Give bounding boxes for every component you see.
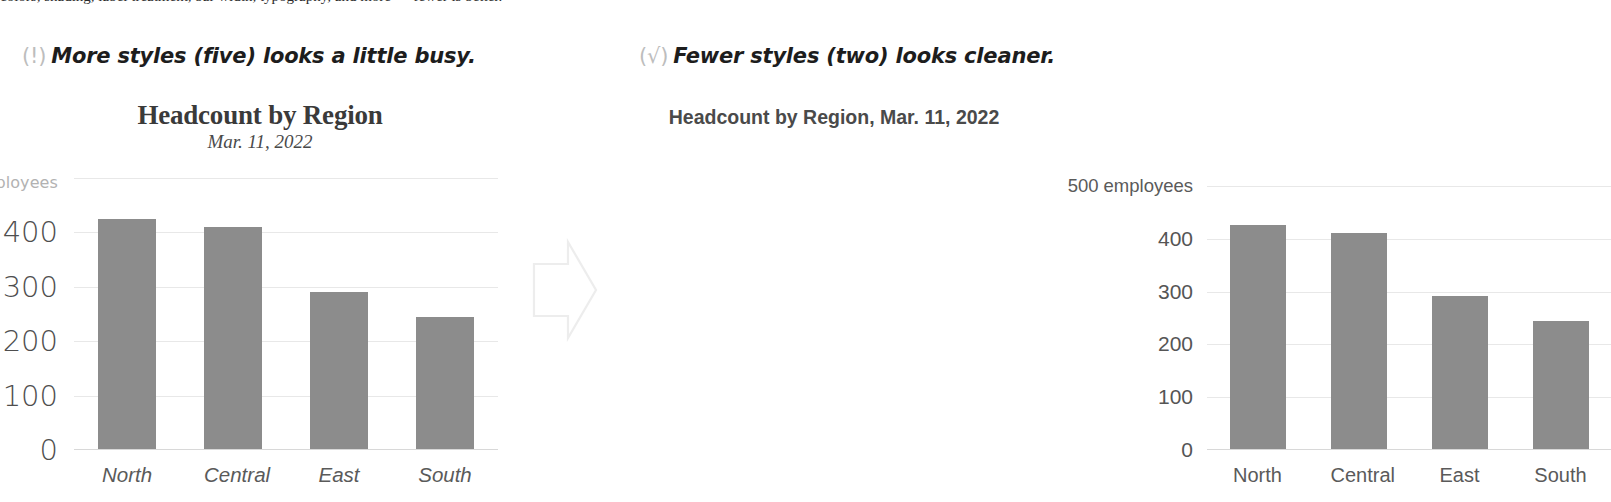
caption-before: (!)More styles (five) looks a little bus… (22, 44, 476, 68)
y-axis-unit-label-after: employees (1104, 175, 1193, 196)
bar-series-before (74, 178, 498, 449)
y-axis-max-value-after: 500 (1068, 175, 1099, 196)
bar-east[interactable] (310, 292, 368, 449)
bar-central[interactable] (204, 227, 262, 449)
bar-south[interactable] (416, 317, 474, 449)
x-tick-central-before: Central (204, 463, 262, 487)
x-tick-labels-after: North Central East South (1207, 450, 1611, 487)
chart-subtitle-before: Mar. 11, 2022 (0, 131, 520, 153)
x-tick-east-after: East (1432, 464, 1488, 487)
x-tick-central-after: Central (1331, 464, 1387, 487)
y-axis-unit-label-before: employees (0, 173, 58, 192)
y-tick-0-before: 0 (40, 433, 58, 467)
bar-south[interactable] (1533, 321, 1589, 449)
bar-central[interactable] (1331, 233, 1387, 449)
x-tick-east-before: East (310, 463, 368, 487)
x-tick-north-before: North (98, 463, 156, 487)
caption-after-text: Fewer styles (two) looks cleaner. (673, 44, 1055, 68)
y-tick-400-before: 400 (3, 215, 58, 249)
y-tick-300-before: 300 (3, 270, 58, 304)
x-tick-south-before: South (416, 463, 474, 487)
check-marker-icon: (√) (639, 44, 668, 68)
y-tick-200-after: 200 (1158, 332, 1193, 356)
y-tick-200-before: 200 (3, 324, 58, 358)
panel-before: (!)More styles (five) looks a little bus… (0, 0, 554, 502)
caption-before-text: More styles (five) looks a little busy. (51, 44, 475, 68)
panel-after: (√)Fewer styles (two) looks cleaner. Hea… (554, 0, 1108, 502)
bar-north[interactable] (1230, 225, 1286, 449)
y-axis-top-annotation-before: 500employees (0, 161, 58, 195)
chart-plot-before: 500employees 400 300 200 100 0 North Cen… (74, 178, 498, 450)
x-tick-labels-before: North Central East South (74, 450, 498, 487)
warning-marker-icon: (!) (22, 44, 46, 68)
x-tick-north-after: North (1230, 464, 1286, 487)
x-tick-south-after: South (1533, 464, 1589, 487)
y-tick-100-before: 100 (3, 379, 58, 413)
y-tick-0-after: 0 (1181, 438, 1193, 462)
chart-title-before: Headcount by Region (0, 100, 520, 131)
caption-after: (√)Fewer styles (two) looks cleaner. (639, 44, 1055, 68)
bar-east[interactable] (1432, 296, 1488, 449)
bar-series-after (1207, 186, 1611, 449)
y-tick-100-after: 100 (1158, 385, 1193, 409)
y-axis-top-annotation-after: 500employees (1068, 175, 1193, 197)
bar-north[interactable] (98, 219, 156, 449)
chart-plot-after: 500employees 400 300 200 100 0 North Cen… (1207, 186, 1611, 450)
y-tick-400-after: 400 (1158, 227, 1193, 251)
y-tick-300-after: 300 (1158, 280, 1193, 304)
chart-title-after: Headcount by Region, Mar. 11, 2022 (584, 106, 1084, 129)
